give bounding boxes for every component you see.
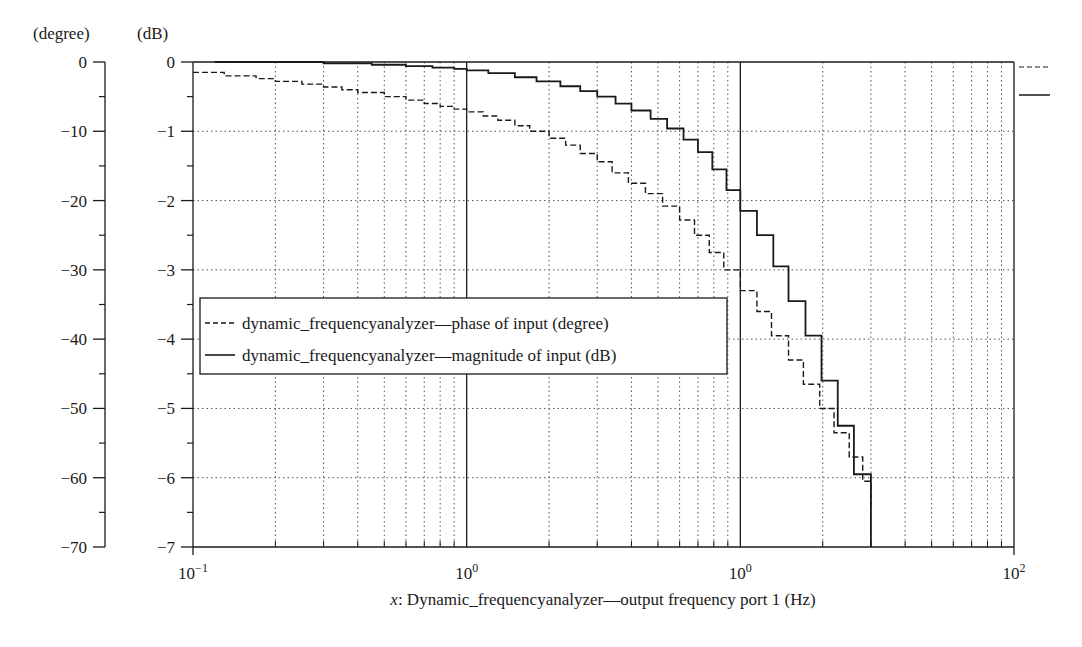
degree-tick-label: −30 [60, 261, 87, 280]
db-tick-label: −3 [157, 261, 175, 280]
db-tick-label: −5 [157, 399, 175, 418]
degree-tick-label: −20 [60, 192, 87, 211]
right-axis-unit-label: (dB) [137, 24, 168, 43]
x-tick-base: 10 [178, 564, 195, 583]
x-tick-exponent: −1 [195, 561, 208, 575]
side-legend [1019, 67, 1050, 95]
degree-tick-label: −70 [60, 538, 87, 557]
degree-tick-label: −60 [60, 469, 87, 488]
legend-label-phase: dynamic_frequencyanalyzer—phase of input… [242, 314, 609, 333]
x-axis-label-text: : Dynamic_frequencyanalyzer—output frequ… [398, 590, 816, 609]
degree-tick-label: 0 [79, 53, 88, 72]
phase-line [193, 72, 871, 505]
legend-label-magnitude: dynamic_frequencyanalyzer—magnitude of i… [242, 346, 616, 365]
db-tick-label: 0 [167, 53, 176, 72]
db-tick-label: −2 [157, 192, 175, 211]
degree-tick-label: −50 [60, 399, 87, 418]
x-tick-exponent: 0 [472, 561, 478, 575]
x-tick-base: 10 [1003, 564, 1020, 583]
db-tick-label: −1 [157, 122, 175, 141]
x-tick-exponent: 0 [746, 561, 752, 575]
db-tick-label: −6 [157, 469, 175, 488]
degree-tick-label: −10 [60, 122, 87, 141]
x-tick-base: 10 [455, 564, 472, 583]
x-tick-label: 102 [1003, 561, 1026, 583]
x-axis-label: x: Dynamic_frequencyanalyzer—output freq… [389, 590, 815, 609]
db-tick-label: −4 [157, 330, 176, 349]
legend: dynamic_frequencyanalyzer—phase of input… [200, 298, 727, 374]
x-tick-label: 10−1 [178, 561, 208, 583]
x-tick-exponent: 2 [1020, 561, 1026, 575]
db-tick-label: −7 [157, 538, 176, 557]
x-tick-label: 100 [455, 561, 478, 583]
x-tick-label: 100 [729, 561, 752, 583]
bode-chart: 10−11001001020−1−2−3−4−5−6−70−10−20−30−4… [0, 0, 1082, 647]
degree-tick-label: −40 [60, 330, 87, 349]
x-tick-base: 10 [729, 564, 746, 583]
left-axis-unit-label: (degree) [33, 24, 90, 43]
